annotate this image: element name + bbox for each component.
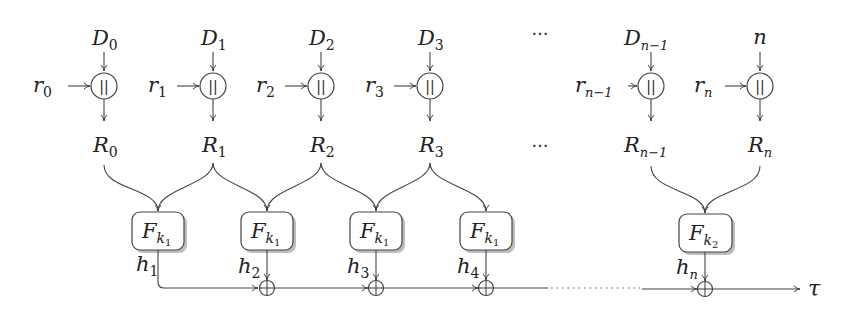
rand-label-2: r2: [256, 73, 275, 100]
out-label-n-minus-1: Rn−1: [623, 133, 667, 160]
xor-icon: [698, 282, 713, 297]
xor-icon: [479, 281, 494, 296]
out-label-2: R2: [309, 133, 335, 160]
curve-Rn-1-to-Fn: [651, 166, 705, 213]
data-label-0: D0: [91, 26, 118, 53]
ellipsis-middle: ···: [531, 135, 548, 156]
concat-icon: ||: [646, 78, 655, 95]
curve-R0-to-F1: [104, 165, 158, 211]
rand-label-0: r0: [33, 73, 52, 100]
out-label-3: R3: [418, 133, 444, 160]
rand-label-3: r3: [365, 73, 384, 100]
column-n-minus-1: Dn−1 rn−1 || Rn−1: [575, 26, 668, 160]
data-label-n-minus-1: Dn−1: [623, 26, 668, 53]
concat-icon: ||: [316, 78, 325, 95]
concat-icon: ||: [755, 78, 764, 95]
curve-R1-to-F1: [158, 163, 213, 211]
data-label-1: D1: [200, 26, 227, 53]
curve-R1-to-F2: [213, 163, 267, 211]
hash-label-n: hn: [676, 255, 698, 282]
curved-connectors: [104, 163, 760, 213]
concat-icon: ||: [99, 78, 108, 95]
column-3: D3 r3 || R3: [365, 26, 444, 160]
data-label-3: D3: [417, 26, 444, 53]
concat-icon: ||: [208, 78, 217, 95]
function-box-1: Fk1: [132, 212, 187, 253]
hash-label-2: h2: [238, 254, 260, 281]
out-label-1: R1: [201, 133, 227, 160]
function-box-4: Fk1: [460, 212, 515, 253]
data-label-2: D2: [308, 26, 335, 53]
hash-label-4: h4: [457, 254, 480, 281]
curve-R3-to-F4: [430, 163, 486, 211]
data-label-n: n: [753, 25, 767, 49]
rand-label-1: r1: [148, 73, 167, 100]
curve-R2-to-F2: [267, 163, 321, 211]
curve-R2-to-F3: [321, 163, 376, 211]
function-box-3: Fk1: [350, 212, 405, 253]
curve-Rn-to-Fn: [705, 166, 760, 213]
mac-chain-diagram: D0 r0 || R0 D1 r1 || R1 D2 r2 || R2 D3 r…: [0, 0, 860, 315]
column-2: D2 r2 || R2: [256, 26, 335, 160]
xor-icon: [260, 281, 275, 296]
column-1: D1 r1 || R1: [148, 26, 227, 160]
function-box-final: Fk2: [679, 214, 735, 255]
column-0: D0 r0 || R0: [33, 26, 118, 160]
out-label-n: Rn: [747, 133, 772, 160]
ellipsis-top: ···: [531, 23, 548, 44]
xor-chain: h1 h2 h3 h4 hn: [136, 250, 821, 301]
hash-label-1: h1: [136, 252, 158, 279]
function-box-2: Fk1: [241, 212, 296, 253]
concat-icon: ||: [425, 78, 434, 95]
rand-label-n-minus-1: rn−1: [575, 73, 613, 100]
output-tag-label: τ: [808, 276, 821, 301]
column-n: n rn || Rn: [694, 25, 773, 160]
out-label-0: R0: [92, 133, 118, 160]
rand-label-n: rn: [694, 73, 712, 100]
hash-label-3: h3: [347, 254, 369, 281]
xor-icon: [369, 281, 384, 296]
curve-R3-to-F3: [376, 163, 430, 211]
